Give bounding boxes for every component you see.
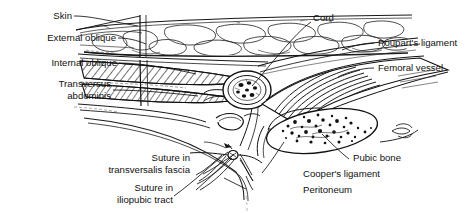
leader-suture-it-2 — [200, 160, 234, 190]
label-transversus-abdominis-line1: Transversus — [0, 78, 111, 89]
leader-peritoneum — [246, 176, 253, 190]
suture-loop-transversalis — [216, 114, 260, 131]
label-suture-iliopubic-line1: Suture in — [60, 182, 173, 193]
label-suture-transversalis-line1: Suture in — [60, 152, 190, 163]
label-external-oblique: External oblique — [0, 32, 116, 43]
transversalis-fascia-layer — [74, 104, 210, 128]
label-transversus-abdominis-line2: abdominis — [0, 90, 111, 101]
label-suture-iliopubic-line2: iliopubic tract — [60, 194, 173, 205]
label-pubic-bone: Pubic bone — [353, 152, 401, 163]
label-poupart-ligament: Poupart's ligament — [378, 37, 457, 48]
subcutaneous-fat-layer — [76, 15, 412, 56]
label-cord: Cord — [313, 12, 334, 23]
label-coopers-ligament: Cooper's ligament — [303, 168, 380, 179]
label-peritoneum: Peritoneum — [303, 184, 352, 195]
figure-canvas: Skin External oblique Internal oblique T… — [0, 0, 465, 213]
label-skin: Skin — [0, 10, 72, 21]
leader-skin — [74, 16, 138, 26]
leader-external-oblique — [118, 38, 146, 44]
label-suture-transversalis-line2: transversalis fascia — [60, 164, 190, 175]
label-internal-oblique: Internal oblique — [0, 57, 117, 68]
leader-cord — [252, 22, 311, 86]
label-femoral-vessel: Femoral vessel — [378, 62, 443, 73]
bone-edge-detail — [392, 124, 412, 138]
